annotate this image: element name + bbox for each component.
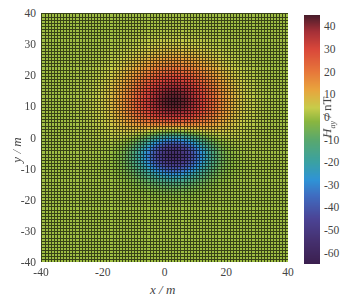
y-tick-label: -10	[8, 163, 36, 175]
y-axis-label: y / m	[9, 137, 25, 162]
x-tick-label: -40	[26, 266, 56, 278]
colorbar	[304, 15, 320, 264]
y-tick-label: 40	[8, 7, 36, 19]
colorbar-tick-label: -20	[324, 156, 339, 168]
x-tick-label: 20	[211, 266, 241, 278]
x-axis-label: x / m	[150, 282, 175, 298]
colorbar-tick-label: 30	[324, 43, 336, 55]
x-tick-label: 0	[150, 266, 180, 278]
colorbar-tick-label: -50	[324, 224, 339, 236]
colorbar-label-sub: ay	[328, 121, 337, 129]
colorbar-tick-label: -60	[324, 247, 339, 259]
y-tick-label: -20	[8, 194, 36, 206]
y-tick-label: 20	[8, 69, 36, 81]
y-tick-label: -30	[8, 225, 36, 237]
colorbar-label-main: H	[319, 129, 334, 138]
colorbar-label: Hay / nT	[319, 96, 337, 138]
heatmap-plot-area	[41, 13, 288, 262]
colorbar-tick-label: -30	[324, 179, 339, 191]
heatmap-canvas	[41, 13, 288, 262]
colorbar-label-unit: / nT	[319, 96, 334, 121]
y-tick-label: 10	[8, 100, 36, 112]
x-tick-label: 40	[273, 266, 303, 278]
x-tick-label: -20	[88, 266, 118, 278]
colorbar-tick-label: 20	[324, 66, 336, 78]
colorbar-tick-label: 40	[324, 20, 336, 32]
y-tick-label: 30	[8, 38, 36, 50]
colorbar-gradient	[304, 15, 320, 264]
colorbar-tick-label: -40	[324, 201, 339, 213]
